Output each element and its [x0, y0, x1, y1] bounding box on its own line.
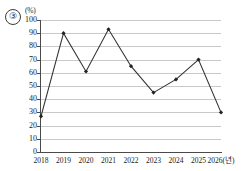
y-tick-label: 100	[17, 16, 37, 24]
y-tick-label: 90	[17, 29, 37, 37]
y-tick-mark	[37, 73, 40, 74]
y-tick-label: 10	[17, 135, 37, 143]
y-tick-label-wrap: 90	[13, 29, 37, 37]
y-tick-mark	[37, 126, 40, 127]
y-tick-label-wrap: 50	[13, 82, 37, 90]
y-tick-label-wrap: 0	[13, 148, 37, 156]
x-tick-label: 2026(년)	[208, 156, 235, 165]
y-tick-label: 40	[17, 95, 37, 103]
y-tick-mark	[37, 46, 40, 47]
y-tick-mark	[37, 99, 40, 100]
y-tick-label: 70	[17, 56, 37, 64]
y-tick-label-wrap: 80	[13, 42, 37, 50]
y-tick-label-wrap: 10	[13, 135, 37, 143]
x-tick-label: 2021	[101, 156, 116, 165]
y-tick-mark	[37, 112, 40, 113]
y-tick-mark	[37, 139, 40, 140]
y-tick-label-wrap: 70	[13, 56, 37, 64]
x-axis-spine	[40, 152, 222, 153]
y-tick-mark	[37, 152, 40, 153]
y-tick-label-wrap: 20	[13, 122, 37, 130]
y-tick-label-wrap: 100	[13, 16, 37, 24]
data-series-line	[41, 20, 221, 152]
y-tick-label: 50	[17, 82, 37, 90]
y-tick-mark	[37, 86, 40, 87]
y-tick-label: 80	[17, 42, 37, 50]
line-chart-figure: ③ (%) 0102030405060708090100 20182019202…	[0, 0, 243, 171]
series-markers	[39, 27, 223, 118]
y-tick-label-wrap: 60	[13, 69, 37, 77]
x-tick-label: 2020	[79, 156, 94, 165]
y-tick-label: 20	[17, 122, 37, 130]
x-tick-label: 2023	[146, 156, 161, 165]
y-tick-label-wrap: 40	[13, 95, 37, 103]
y-tick-mark	[37, 20, 40, 21]
y-tick-label: 60	[17, 69, 37, 77]
plot-area	[41, 20, 221, 152]
y-tick-mark	[37, 33, 40, 34]
x-tick-label: 2024	[169, 156, 184, 165]
y-tick-label: 30	[17, 108, 37, 116]
y-tick-label: 0	[17, 148, 37, 156]
x-tick-label: 2019	[56, 156, 71, 165]
series-polyline	[41, 29, 221, 116]
y-tick-mark	[37, 60, 40, 61]
x-tick-label: 2022	[124, 156, 139, 165]
x-tick-label: 2025	[191, 156, 206, 165]
data-point-marker	[219, 110, 223, 114]
y-tick-label-wrap: 30	[13, 108, 37, 116]
x-tick-label: 2018	[34, 156, 49, 165]
y-axis-unit-label: (%)	[25, 6, 36, 15]
